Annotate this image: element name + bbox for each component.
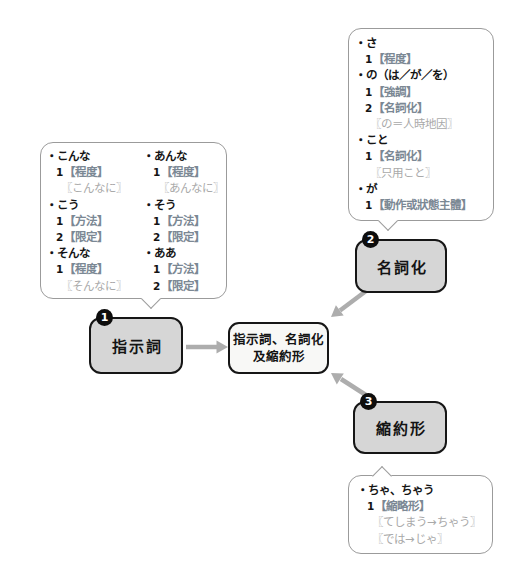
- node-label: 縮約形: [374, 417, 427, 438]
- bubble-tail: [378, 211, 398, 231]
- diagram-canvas: ・こんな1【程度】〖こんなに〗・こう1【方法】2【限定】・そんな1【程度】〖そん…: [0, 0, 524, 585]
- entry-line: 2【名詞化】: [355, 100, 491, 116]
- sense-number: 1: [56, 166, 63, 178]
- entry-line: ・さ: [355, 35, 491, 51]
- entry-line: 〖では→じゃ〗: [357, 531, 490, 547]
- category-label: 【程度】: [161, 165, 205, 179]
- entry-word: の（は／が／を）: [366, 68, 454, 82]
- gloss-text: 〖では→じゃ〗: [372, 532, 448, 546]
- entry-line: 1【程度】: [46, 164, 143, 180]
- category-label: 【限定】: [161, 230, 205, 244]
- bubble-nominalization: ・さ1【程度】・の（は／が／を）1【強調】2【名詞化】〖の＝人時地因〗・こと1【…: [348, 28, 494, 221]
- sense-number: 2: [153, 231, 160, 243]
- bullet: ・: [46, 246, 57, 260]
- badge-number-1: 1: [96, 309, 113, 326]
- entry-line: 2【限定】: [143, 278, 224, 294]
- node-contraction: 3 縮約形: [353, 401, 447, 454]
- category-label: 【方法】: [64, 214, 108, 228]
- gloss-text: 〖そんなに〗: [61, 279, 127, 293]
- category-label: 【程度】: [64, 262, 108, 276]
- badge-number-2: 2: [362, 231, 379, 248]
- category-label: 【名詞化】: [373, 101, 428, 115]
- entry-line: ・こんな: [46, 148, 143, 164]
- bubble-demonstratives-right-column: ・あんな1【程度】〖あんなに〗・そう1【方法】2【限定】・ああ1【方法】2【限定…: [143, 148, 224, 294]
- sense-number: 2: [365, 102, 372, 114]
- category-label: 【動作或狀態主體】: [373, 198, 472, 212]
- bullet: ・: [355, 182, 366, 196]
- sense-number: 1: [153, 166, 160, 178]
- bubble-contraction: ・ちゃ、ちゃう1【縮略形】〖てしまう→ちゃう〗〖では→じゃ〗: [348, 475, 493, 554]
- entry-line: 2【限定】: [46, 229, 143, 245]
- entry-line: 〖只用こと〗: [355, 165, 491, 181]
- bullet: ・: [355, 68, 366, 82]
- entry-word: あんな: [154, 149, 187, 163]
- category-label: 【限定】: [64, 230, 108, 244]
- sense-number: 1: [365, 199, 372, 211]
- entry-line: 1【程度】: [143, 164, 224, 180]
- sense-number: 1: [56, 215, 63, 227]
- bubble-demonstratives: ・こんな1【程度】〖こんなに〗・こう1【方法】2【限定】・そんな1【程度】〖そん…: [40, 142, 227, 299]
- bullet: ・: [355, 133, 366, 147]
- entry-word: そう: [154, 198, 176, 212]
- entry-word: さ: [366, 36, 377, 50]
- node-label: 名詞化: [375, 256, 428, 277]
- entry-line: 〖の＝人時地因〗: [355, 116, 491, 132]
- entry-line: 1【方法】: [46, 213, 143, 229]
- gloss-text: 〖の＝人時地因〗: [370, 117, 458, 131]
- gloss-text: 〖こんなに〗: [61, 181, 127, 195]
- bullet: ・: [143, 246, 154, 260]
- gloss-text: 〖あんなに〗: [158, 181, 224, 195]
- gloss-text: 〖只用こと〗: [370, 166, 436, 180]
- sense-number: 1: [365, 150, 372, 162]
- center-label-line2: 及縮約形: [253, 348, 305, 366]
- gloss-text: 〖てしまう→ちゃう〗: [372, 515, 481, 529]
- sense-number: 2: [153, 280, 160, 292]
- node-label: 指示詞: [110, 335, 163, 356]
- category-label: 【程度】: [64, 165, 108, 179]
- entry-line: ・の（は／が／を）: [355, 67, 491, 83]
- bullet: ・: [143, 198, 154, 212]
- bullet: ・: [355, 36, 366, 50]
- entry-word: こう: [57, 198, 79, 212]
- category-label: 【程度】: [373, 52, 417, 66]
- entry-word: そんな: [57, 246, 90, 260]
- node-demonstratives: 1 指示詞: [89, 317, 183, 374]
- category-label: 【方法】: [161, 262, 205, 276]
- entry-line: ・あんな: [143, 148, 224, 164]
- arrow-nominalization-to-center: [331, 291, 366, 317]
- entry-line: 1【動作或狀態主體】: [355, 197, 491, 213]
- node-center-summary: 指示詞、名詞化 及縮約形: [228, 322, 329, 374]
- category-label: 【強調】: [373, 85, 417, 99]
- sense-number: 1: [367, 500, 374, 512]
- bullet: ・: [143, 149, 154, 163]
- entry-line: 1【名詞化】: [355, 148, 491, 164]
- entry-line: ・ちゃ、ちゃう: [357, 482, 490, 498]
- entry-word: こと: [366, 133, 388, 147]
- entry-line: 1【縮略形】: [357, 498, 490, 514]
- sense-number: 1: [56, 263, 63, 275]
- entry-line: 1【方法】: [143, 261, 224, 277]
- entry-line: 1【方法】: [143, 213, 224, 229]
- center-label-line1: 指示詞、名詞化: [233, 331, 324, 349]
- entry-line: ・そんな: [46, 245, 143, 261]
- badge-number-3: 3: [360, 393, 377, 410]
- entry-line: ・が: [355, 181, 491, 197]
- entry-line: ・そう: [143, 197, 224, 213]
- entry-line: 〖こんなに〗: [46, 180, 143, 196]
- entry-line: ・こと: [355, 132, 491, 148]
- entry-line: ・ああ: [143, 245, 224, 261]
- category-label: 【限定】: [161, 279, 205, 293]
- bullet: ・: [46, 149, 57, 163]
- entry-line: 1【程度】: [46, 261, 143, 277]
- entry-line: 1【強調】: [355, 84, 491, 100]
- category-label: 【名詞化】: [373, 149, 428, 163]
- category-label: 【方法】: [161, 214, 205, 228]
- entry-line: 1【程度】: [355, 51, 491, 67]
- node-nominalization: 2 名詞化: [355, 239, 447, 293]
- entry-line: 2【限定】: [143, 229, 224, 245]
- entry-line: 〖あんなに〗: [143, 180, 224, 196]
- sense-number: 1: [365, 86, 372, 98]
- entry-line: 〖そんなに〗: [46, 278, 143, 294]
- sense-number: 1: [153, 263, 160, 275]
- sense-number: 1: [153, 215, 160, 227]
